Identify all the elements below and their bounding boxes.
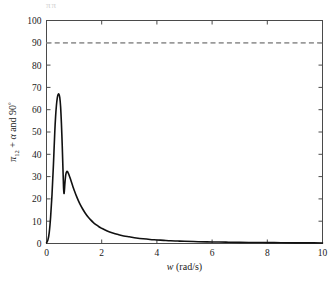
y-tick-label: 30 [32,172,42,182]
x-tick-label: 0 [44,248,49,258]
x-tick-label: 2 [99,248,104,258]
y-tick-label: 10 [32,217,42,227]
y-tick-label: 0 [37,239,42,249]
plot-series [47,43,323,243]
y-tick-label: 90 [32,38,42,48]
x-tick-label: 6 [210,248,215,258]
cropped-text-artifact: ππ [46,0,57,10]
figure-container: ππ 01020304050607080901000246810w (rad/s… [0,0,336,281]
y-tick-label: 60 [32,105,42,115]
plot-frame [47,21,323,244]
y-tick-label: 100 [27,16,42,26]
x-tick-label: 8 [265,248,270,258]
response-curve [47,94,323,243]
plot-axes [47,21,323,244]
y-axis-title: π12 + α and 90° [7,102,20,162]
y-tick-label: 40 [32,150,42,160]
x-tick-label: 4 [155,248,160,258]
x-axis-title: w (rad/s) [167,261,202,273]
y-tick-label: 20 [32,194,42,204]
x-tick-label: 10 [318,248,328,258]
line-chart: 01020304050607080901000246810w (rad/s)π1… [0,0,336,281]
y-tick-label: 70 [32,83,42,93]
y-tick-label: 80 [32,61,42,71]
y-tick-label: 50 [32,127,42,137]
